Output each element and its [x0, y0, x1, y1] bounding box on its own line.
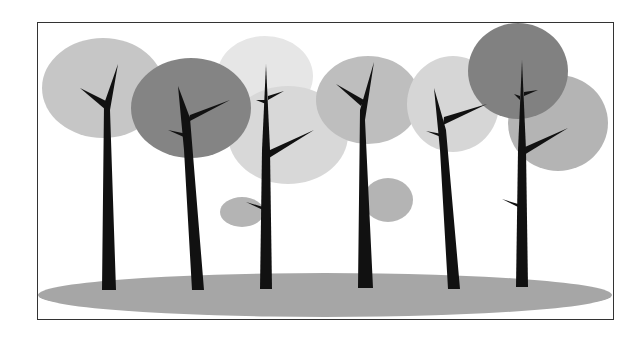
canopy-7 — [468, 23, 568, 119]
forest-illustration — [0, 0, 644, 342]
canopy-small-2 — [363, 178, 413, 222]
canopy-small-1 — [220, 197, 264, 227]
